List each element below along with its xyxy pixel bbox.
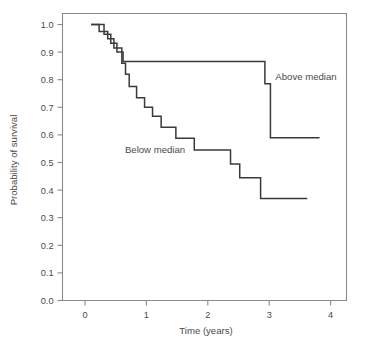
axes [63,14,347,301]
series-lines [91,25,319,199]
axis-tick-labels: 0.00.10.20.30.40.50.60.70.80.91.001234 [41,20,333,320]
y-tick-label: 0.5 [41,158,54,168]
series-label-below-median: Below median [125,144,185,155]
y-tick-label: 0.2 [41,241,54,251]
series-annotations: Above medianBelow median [125,71,337,155]
x-tick-label: 3 [267,310,272,320]
y-tick-label: 0.7 [41,103,54,113]
x-tick-label: 0 [82,310,87,320]
y-tick-label: 0.1 [41,268,54,278]
y-tick-label: 1.0 [41,20,54,30]
y-tick-label: 0.0 [41,296,54,306]
y-tick-label: 0.3 [41,213,54,223]
x-axis-title: Time (years) [179,325,232,336]
x-tick-label: 1 [144,310,149,320]
y-tick-label: 0.6 [41,130,54,140]
x-tick-label: 2 [205,310,210,320]
axis-ticks [58,25,331,306]
y-tick-label: 0.8 [41,75,54,85]
x-tick-label: 4 [328,310,333,320]
series-line-below-median [91,25,307,199]
y-tick-label: 0.9 [41,48,54,58]
y-tick-label: 0.4 [41,186,54,196]
series-label-above-median: Above median [275,71,336,82]
y-axis-title: Probability of survival [8,115,19,206]
survival-curve-figure: 0.00.10.20.30.40.50.60.70.80.91.001234 A… [0,0,368,362]
kaplan-meier-chart: 0.00.10.20.30.40.50.60.70.80.91.001234 A… [0,0,368,362]
plot-frame [63,14,347,301]
